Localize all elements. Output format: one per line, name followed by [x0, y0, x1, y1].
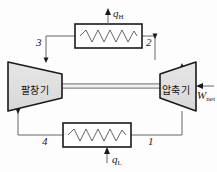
ql-subscript: L [118, 159, 122, 167]
compressor-label: 압축기 [162, 85, 190, 96]
pipe-segment-3 [46, 36, 75, 60]
connecting-shaft [62, 84, 160, 88]
state-point-2: 2 [146, 37, 152, 48]
cycle-diagram: 팔창기 압축기 3 2 4 1 qH qL Wnet [0, 0, 217, 172]
compressor-label-wrap: 압축기 [156, 80, 196, 98]
heat-rejected-label: qH [113, 8, 124, 19]
qh-symbol: q [113, 7, 119, 19]
wnet-subscript: net [206, 95, 215, 103]
expander-label-wrap: 팔창기 [8, 80, 62, 98]
wnet-symbol: W [197, 89, 206, 101]
arrow-into-expander [44, 58, 49, 63]
pipe-segment-4 [18, 111, 63, 135]
state-point-1: 1 [148, 136, 154, 147]
qh-subscript: H [119, 13, 124, 21]
upper-heat-exchanger [75, 24, 142, 48]
pipe-segment-1 [131, 111, 182, 135]
heat-rejected-arrow [105, 8, 111, 24]
ql-symbol: q [112, 153, 118, 165]
lower-heat-exchanger [63, 123, 131, 147]
state-point-3: 3 [36, 37, 42, 48]
heat-absorbed-label: qL [112, 154, 122, 165]
expander-label: 팔창기 [21, 85, 49, 96]
heat-absorbed-arrow [104, 147, 110, 163]
net-work-label: Wnet [197, 90, 215, 101]
state-point-4: 4 [42, 136, 48, 147]
